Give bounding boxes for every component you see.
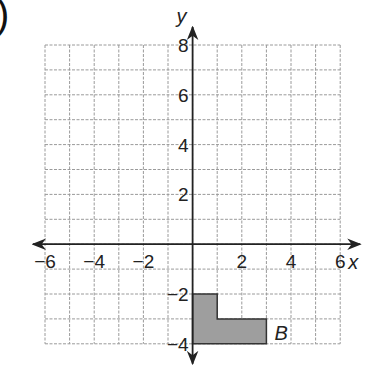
y-tick-label: 6	[178, 85, 189, 106]
x-tick-label: −2	[133, 251, 155, 272]
y-tick-label: 4	[178, 135, 189, 156]
coordinate-grid: −6−4−22468642−2−4 x y B	[0, 0, 376, 378]
x-tick-label: 4	[286, 251, 297, 272]
shape-b	[193, 294, 267, 344]
y-tick-label: 8	[178, 35, 189, 56]
y-tick-label: −2	[167, 284, 189, 305]
x-tick-label: −4	[83, 251, 105, 272]
x-axis-label: x	[347, 251, 359, 273]
coordinate-plane-figure: ) −6−4−22468642−2−4 x y B	[0, 0, 376, 378]
x-tick-label: 6	[335, 251, 346, 272]
y-tick-label: −4	[167, 334, 189, 355]
x-tick-label: 2	[237, 251, 248, 272]
shape-label-b: B	[274, 322, 287, 344]
y-axis-label: y	[175, 5, 188, 27]
y-tick-label: 2	[178, 184, 189, 205]
x-tick-label: −6	[34, 251, 56, 272]
